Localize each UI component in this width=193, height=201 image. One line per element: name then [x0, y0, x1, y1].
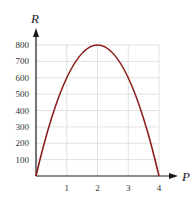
y-axis-arrow-icon	[33, 28, 39, 37]
y-tick: 600	[16, 73, 30, 83]
x-tick: 2	[95, 183, 100, 193]
y-tick: 300	[16, 122, 30, 132]
y-tick: 200	[16, 138, 30, 148]
x-tick: 3	[126, 183, 131, 193]
x-tick: 4	[157, 183, 162, 193]
x-axis-label: P	[181, 169, 190, 184]
y-tick: 400	[16, 106, 30, 116]
x-tick: 1	[65, 183, 70, 193]
x-axis-arrow-icon	[169, 173, 178, 179]
y-tick: 100	[16, 155, 30, 165]
y-tick: 500	[16, 89, 30, 99]
y-tick: 700	[16, 56, 30, 66]
x-tick-labels: 1 2 3 4	[65, 183, 162, 193]
y-axis-label: R	[30, 11, 39, 26]
axes	[36, 36, 172, 176]
y-tick: 800	[16, 40, 30, 50]
y-tick-labels: 100 200 300 400 500 600 700 800	[16, 40, 30, 165]
chart: R P 1 2 3 4 100 200 300 400 500 600 700 …	[0, 0, 193, 201]
